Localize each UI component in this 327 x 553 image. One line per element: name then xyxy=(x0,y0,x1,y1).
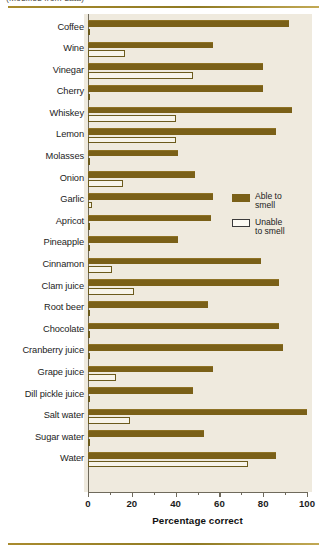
x-tick-major xyxy=(219,492,220,497)
bar-group xyxy=(88,83,327,105)
bar-able-to-smell xyxy=(88,150,178,157)
bar-able-to-smell xyxy=(88,63,263,70)
category-label: Cherry xyxy=(57,86,84,96)
bar-able-to-smell xyxy=(88,279,279,286)
x-tick-minor xyxy=(198,492,199,495)
category-label: Onion xyxy=(60,173,84,183)
legend-item-unable: Unable to smell xyxy=(232,218,285,237)
bar-able-to-smell xyxy=(88,193,213,200)
bar-unable-to-smell xyxy=(88,50,125,57)
bar-unable-to-smell xyxy=(88,353,90,360)
x-tick-major xyxy=(176,492,177,497)
bar-group xyxy=(88,364,327,386)
bar-able-to-smell xyxy=(88,301,208,308)
bar-able-to-smell xyxy=(88,387,193,394)
bar-able-to-smell xyxy=(88,171,195,178)
x-tick-major xyxy=(307,492,308,497)
bar-group xyxy=(88,148,327,170)
bar-able-to-smell xyxy=(88,323,279,330)
bottom-rule xyxy=(8,543,319,545)
x-tick-label: 60 xyxy=(214,498,225,509)
category-label: Cranberry juice xyxy=(22,345,84,355)
bar-unable-to-smell xyxy=(88,223,90,230)
x-tick-major xyxy=(263,492,264,497)
chart-row: Cinnamon xyxy=(0,256,327,278)
top-rule xyxy=(8,6,319,8)
bar-group xyxy=(88,342,327,364)
x-tick-label: 0 xyxy=(85,498,90,509)
bar-unable-to-smell xyxy=(88,180,123,187)
bar-able-to-smell xyxy=(88,236,178,243)
bar-unable-to-smell xyxy=(88,137,176,144)
chart-row: Chocolate xyxy=(0,320,327,342)
bar-able-to-smell xyxy=(88,452,276,459)
category-label: Lemon xyxy=(56,129,84,139)
bar-group xyxy=(88,450,327,472)
bar-unable-to-smell xyxy=(88,439,90,446)
legend-swatch-able xyxy=(232,194,250,202)
bar-able-to-smell xyxy=(88,409,307,416)
chart-row: Salt water xyxy=(0,407,327,429)
bar-able-to-smell xyxy=(88,20,289,27)
category-label: Pineapple xyxy=(44,237,84,247)
bar-group xyxy=(88,320,327,342)
bar-unable-to-smell xyxy=(88,331,90,338)
chart-row: Cranberry juice xyxy=(0,342,327,364)
bar-group xyxy=(88,40,327,62)
x-tick-minor xyxy=(285,492,286,495)
category-label: Dill pickle juice xyxy=(25,389,84,399)
bar-group xyxy=(88,428,327,450)
category-label: Sugar water xyxy=(35,432,84,442)
legend-swatch-unable xyxy=(232,219,250,227)
category-label: Chocolate xyxy=(43,324,84,334)
legend-item-able: Able to smell xyxy=(232,192,285,211)
legend-label-unable-line2: to smell xyxy=(255,226,285,236)
x-tick-major xyxy=(88,492,89,497)
bar-unable-to-smell xyxy=(88,115,176,122)
bar-group xyxy=(88,277,327,299)
category-label: Apricot xyxy=(56,216,84,226)
bar-group xyxy=(88,299,327,321)
caption-fragment: (Modified from data) xyxy=(6,0,84,3)
bar-group xyxy=(88,191,327,213)
category-label: Vinegar xyxy=(53,65,84,75)
bar-unable-to-smell xyxy=(88,202,92,209)
bar-chart: CoffeeWineVinegarCherryWhiskeyLemonMolas… xyxy=(0,14,327,534)
chart-row: Coffee xyxy=(0,18,327,40)
x-tick-minor xyxy=(154,492,155,495)
category-label: Root beer xyxy=(44,302,84,312)
bar-unable-to-smell xyxy=(88,72,193,79)
chart-row: Dill pickle juice xyxy=(0,385,327,407)
chart-row: Lemon xyxy=(0,126,327,148)
chart-row: Molasses xyxy=(0,148,327,170)
category-label: Water xyxy=(60,453,84,463)
chart-row: Clam juice xyxy=(0,277,327,299)
category-label: Coffee xyxy=(57,22,84,32)
x-axis-title: Percentage correct xyxy=(88,515,307,526)
chart-row: Grape juice xyxy=(0,364,327,386)
x-axis xyxy=(88,492,307,493)
bar-group xyxy=(88,407,327,429)
x-tick-major xyxy=(132,492,133,497)
chart-row: Whiskey xyxy=(0,104,327,126)
bar-unable-to-smell xyxy=(88,266,112,273)
chart-row: Vinegar xyxy=(0,61,327,83)
chart-row: Sugar water xyxy=(0,428,327,450)
x-tick-label: 40 xyxy=(170,498,181,509)
x-tick-minor xyxy=(110,492,111,495)
bar-able-to-smell xyxy=(88,366,213,373)
bar-able-to-smell xyxy=(88,107,292,114)
bar-group xyxy=(88,104,327,126)
bar-group xyxy=(88,256,327,278)
category-label: Clam juice xyxy=(42,281,84,291)
x-tick-label: 20 xyxy=(126,498,137,509)
bar-group xyxy=(88,212,327,234)
chart-legend: Able to smell Unable to smell xyxy=(232,192,285,243)
bar-unable-to-smell xyxy=(88,461,248,468)
bar-able-to-smell xyxy=(88,215,211,222)
bar-able-to-smell xyxy=(88,430,204,437)
chart-row: Cherry xyxy=(0,83,327,105)
bar-group xyxy=(88,126,327,148)
chart-rows: CoffeeWineVinegarCherryWhiskeyLemonMolas… xyxy=(0,18,327,471)
chart-row: Water xyxy=(0,450,327,472)
